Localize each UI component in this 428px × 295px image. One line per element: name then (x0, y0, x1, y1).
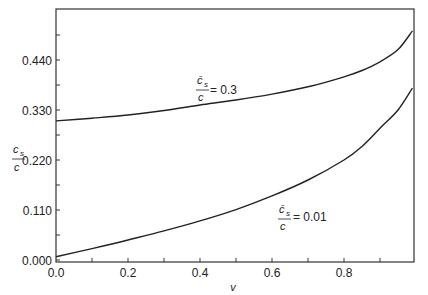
curve-cs-0.01 (56, 88, 412, 257)
y-tick-label-3: 0.330 (22, 104, 52, 118)
annotation-cs-0.3: c̄ s c = 0.3 (196, 74, 237, 103)
svg-text:s: s (204, 80, 208, 89)
y-tick-label-2: 0.220 (22, 154, 52, 168)
svg-text:= 0.3: = 0.3 (210, 83, 237, 97)
x-tick-label-0: 0.0 (48, 266, 65, 280)
x-tick-label-3: 0.6 (264, 266, 281, 280)
x-tick-label-2: 0.4 (192, 266, 209, 280)
x-axis-ticks (92, 258, 380, 262)
svg-text:c̄: c̄ (197, 74, 203, 86)
svg-text:c̄: c̄ (279, 203, 285, 215)
svg-text:c: c (280, 220, 286, 232)
annotation-cs-0.01: c̄ s c = 0.01 (278, 203, 327, 232)
svg-text:= 0.01: = 0.01 (293, 210, 327, 224)
curve-cs-0.3 (56, 31, 412, 121)
svg-text:c: c (198, 91, 204, 103)
svg-text:s: s (286, 209, 290, 218)
y-tick-label-1: 0.110 (23, 204, 52, 218)
svg-text:s: s (20, 149, 24, 158)
plot-frame (56, 9, 414, 262)
x-tick-label-4: 0.8 (336, 266, 353, 280)
chart-canvas: 0.000 0.110 0.220 0.330 0.440 0.0 0.2 0.… (0, 0, 428, 295)
x-tick-label-1: 0.2 (120, 266, 137, 280)
svg-text:c: c (13, 143, 19, 155)
svg-text:c: c (14, 161, 20, 173)
x-axis-label: v (230, 281, 237, 293)
y-tick-label-4: 0.440 (22, 54, 52, 68)
